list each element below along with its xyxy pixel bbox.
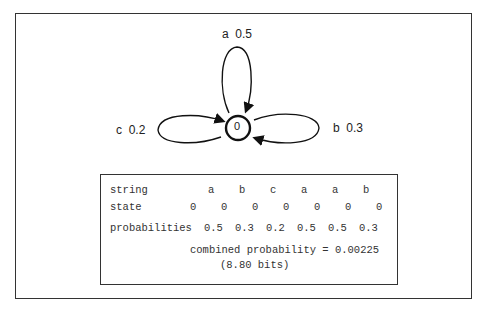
combined-probability: combined probability = 0.00225 (190, 244, 379, 256)
loop-b-label: b 0.3 (333, 121, 363, 135)
state-cell: 0 (283, 201, 289, 213)
probability-cell: 0.2 (266, 222, 285, 234)
loop-c-label: c 0.2 (116, 123, 145, 137)
state-cell: 0 (376, 201, 382, 213)
string-cell: b (239, 184, 245, 196)
state-cell: 0 (314, 201, 320, 213)
string-cell: a (208, 184, 214, 196)
probability-cell: 0.5 (297, 222, 316, 234)
probability-cell: 0.3 (359, 222, 378, 234)
state-cell: 0 (345, 201, 351, 213)
loop-c-arrow (158, 116, 223, 143)
row-label-probabilities: probabilities (110, 222, 192, 234)
state-cell: 0 (252, 201, 258, 213)
string-cell: a (301, 184, 307, 196)
probability-cell: 0.5 (328, 222, 347, 234)
probability-cell: 0.3 (235, 222, 254, 234)
string-cell: c (270, 184, 276, 196)
state-label: 0 (234, 120, 240, 132)
row-label-state: state (110, 201, 142, 213)
loop-b-arrow (254, 114, 319, 143)
string-cell: b (363, 184, 369, 196)
probability-cell: 0.5 (204, 222, 223, 234)
bits-value: (8.80 bits) (220, 259, 289, 271)
state-cell: 0 (221, 201, 227, 213)
row-label-string: string (110, 184, 148, 196)
loop-a-label: a 0.5 (222, 27, 252, 41)
loop-a-arrow (222, 47, 251, 113)
state-cell: 0 (190, 201, 196, 213)
string-cell: a (332, 184, 338, 196)
